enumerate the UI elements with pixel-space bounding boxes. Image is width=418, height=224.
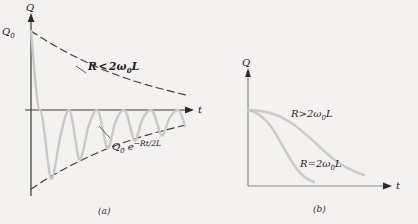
panel-b-caption: (b) — [313, 204, 326, 214]
panel-a-graph — [25, 13, 194, 196]
panel-a-condition-tail: L — [132, 60, 140, 72]
panel-a-caption: (a) — [98, 206, 110, 216]
panel-a-y-axis-arrow — [28, 13, 35, 22]
panel-a-initial-value-text: Q — [2, 26, 10, 37]
panel-b-lower-condition-label: R=2ω0L — [300, 158, 342, 172]
panel-b-upper-lhs: R — [291, 108, 299, 119]
panel-b-upper-condition-label: R>2ω0L — [291, 108, 333, 122]
panel-a-envelope-prefix: Q — [112, 141, 120, 152]
panel-a-x-axis-arrow — [185, 107, 194, 114]
panel-a-envelope-label: Q0 e−Rt/2L — [112, 139, 161, 155]
panel-b-lower-lhs: R — [300, 158, 308, 169]
panel-a-envelope-exponent: −Rt/2L — [134, 139, 161, 148]
figure-svg — [0, 0, 418, 224]
panel-b-y-axis-arrow — [245, 68, 251, 77]
panel-a-oscillation-curve — [31, 31, 185, 179]
panel-b-x-axis-arrow — [383, 183, 392, 190]
panel-a-condition-operator: < — [97, 60, 109, 72]
panel-a-initial-value-sub: 0 — [10, 32, 14, 40]
panel-b-x-axis-label: t — [396, 180, 400, 191]
panel-b-lower-tail: L — [335, 158, 342, 169]
panel-a-condition-lhs: R — [88, 60, 97, 72]
panel-a-condition-label: R<2ω0L — [88, 60, 139, 75]
panel-b-lower-operator: = — [308, 158, 316, 169]
panel-a-initial-value-label: Q0 — [2, 26, 15, 40]
panel-b-y-axis-label: Q — [242, 57, 250, 68]
panel-a-condition-leader — [76, 66, 86, 73]
panel-a-y-axis-label: Q — [26, 2, 34, 13]
panel-b-upper-tail: L — [326, 108, 333, 119]
panel-b-upper-operator: > — [299, 108, 307, 119]
panel-a-x-axis-label: t — [198, 104, 202, 115]
panel-a-condition-omega: ω — [116, 60, 126, 72]
figure-container: Q Q0 t R<2ω0L Q0 e−Rt/2L (a) Q t R>2ω0L … — [0, 0, 418, 224]
panel-a-envelope-prefix-sub: 0 — [120, 147, 124, 155]
